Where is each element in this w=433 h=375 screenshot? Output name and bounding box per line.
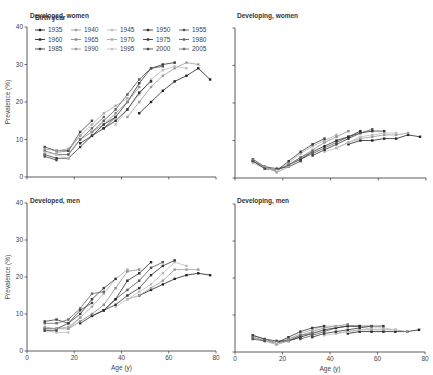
y-tick-label: 0 [19, 347, 23, 354]
series-line-2000 [45, 156, 57, 160]
svg-text:1940: 1940 [84, 26, 99, 33]
data-point [79, 135, 81, 137]
data-point [44, 153, 46, 155]
data-point [103, 123, 105, 125]
panel-title: Developed, men [30, 197, 80, 205]
data-point [359, 130, 361, 132]
svg-text:1975: 1975 [156, 36, 171, 43]
data-point [91, 298, 93, 300]
data-point [150, 101, 152, 103]
data-point [150, 80, 152, 82]
data-point [138, 268, 140, 270]
svg-text:1970: 1970 [120, 36, 135, 43]
data-point [138, 294, 140, 296]
svg-text:1985: 1985 [48, 45, 63, 52]
data-point [91, 135, 93, 137]
data-point [335, 330, 337, 332]
data-point [91, 305, 93, 307]
data-point [185, 274, 187, 276]
data-point [138, 272, 140, 274]
legend-item-1980: 1980 [179, 36, 207, 43]
legend-item-1995: 1995 [107, 45, 135, 52]
y-tick-label: 30 [16, 61, 24, 68]
x-tick-label: 20 [71, 354, 79, 361]
y-tick-label: 20 [16, 98, 24, 105]
legend-item-1965: 1965 [71, 36, 99, 43]
data-point [287, 340, 289, 342]
data-point [311, 332, 313, 334]
y-tick-label: 20 [16, 273, 24, 280]
data-point [67, 153, 69, 155]
series-line-1985 [253, 159, 301, 168]
legend-item-2000: 2000 [143, 45, 171, 52]
series-line-2000 [253, 161, 265, 169]
data-point [419, 136, 421, 138]
data-point [335, 134, 337, 136]
data-point [406, 330, 408, 332]
data-point [138, 86, 140, 88]
x-tick-label: 80 [421, 355, 429, 362]
data-point [138, 287, 140, 289]
data-point [138, 291, 140, 293]
data-point [114, 123, 116, 125]
data-point [138, 91, 140, 93]
y-axis-label: Prevalence (%) [4, 80, 12, 124]
data-point [55, 153, 57, 155]
svg-text:1990: 1990 [84, 45, 99, 52]
data-point [103, 287, 105, 289]
svg-text:1945: 1945 [120, 26, 135, 33]
data-point [44, 320, 46, 322]
data-point [185, 265, 187, 267]
legend-item-1990: 1990 [71, 45, 99, 52]
svg-text:1955: 1955 [192, 26, 207, 33]
data-point [263, 340, 265, 342]
data-point [79, 320, 81, 322]
y-tick-label: 10 [16, 136, 24, 143]
data-point [150, 267, 152, 269]
data-point [79, 146, 81, 148]
data-point [173, 65, 175, 67]
data-point [197, 268, 199, 270]
legend-item-1955: 1955 [179, 26, 207, 33]
data-point [150, 287, 152, 289]
data-point [114, 112, 116, 114]
y-tick-label: 10 [16, 310, 24, 317]
data-point [311, 327, 313, 329]
data-point [382, 325, 384, 327]
data-point [299, 160, 301, 162]
svg-text:1960: 1960 [48, 36, 63, 43]
data-point [299, 336, 301, 338]
data-point [67, 318, 69, 320]
data-point [79, 131, 81, 133]
data-point [173, 61, 175, 63]
data-point [299, 156, 301, 158]
data-point [126, 93, 128, 95]
data-point [138, 101, 140, 103]
data-point [67, 331, 69, 333]
data-point [67, 157, 69, 159]
data-point [44, 328, 46, 330]
panel-developed-women: Developed, women010203040Prevalence (%) [4, 12, 216, 180]
svg-text:1935: 1935 [48, 26, 63, 33]
data-point [150, 261, 152, 263]
x-tick-label: 40 [326, 355, 334, 362]
x-tick-label: 0 [25, 354, 29, 361]
data-point [173, 259, 175, 261]
data-point [138, 78, 140, 80]
data-point [395, 137, 397, 139]
y-tick-label: 0 [19, 173, 23, 180]
panel-developed-men: Developed, men010203040020406080Age (y)P… [4, 197, 220, 372]
data-point [103, 304, 105, 306]
data-point [103, 112, 105, 114]
data-point [347, 329, 349, 331]
data-point [55, 329, 57, 331]
data-point [299, 330, 301, 332]
data-point [162, 272, 164, 274]
data-point [138, 82, 140, 84]
data-point [335, 325, 337, 327]
data-point [114, 116, 116, 118]
data-point [67, 148, 69, 150]
legend-item-1935: 1935 [35, 26, 63, 33]
data-point [79, 309, 81, 311]
x-tick-label: 60 [374, 355, 382, 362]
